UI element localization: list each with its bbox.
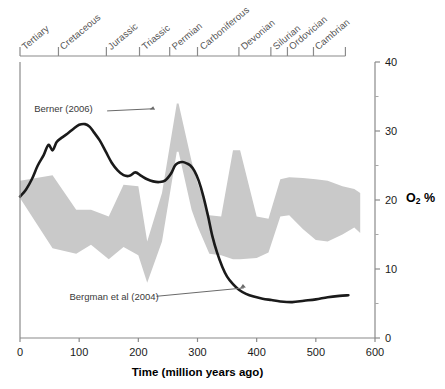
x-tick-label: 500 [307,346,325,358]
y-axis-title: O2 % [406,191,435,206]
y-tick-label: 0 [385,332,391,344]
y-tick-label: 40 [385,56,397,68]
y-tick-label: 10 [385,263,397,275]
x-tick-label: 100 [70,346,88,358]
y-tick-label: 30 [385,125,397,137]
y-axis-ticks [375,62,380,338]
x-tick-label: 600 [366,346,384,358]
chart-canvas [0,0,445,389]
series-annotation-berner: Berner (2006) [34,103,93,114]
x-tick-label: 200 [129,346,147,358]
oxygen-history-chart-figure: TertiaryCretaceousJurassicTriassicPermia… [0,0,445,389]
x-tick-label: 400 [247,346,265,358]
y-tick-label: 20 [385,194,397,206]
x-tick-label: 0 [17,346,23,358]
series-annotation-bergman: Bergman et al (2004) [70,291,159,302]
x-axis-title: Time (million years ago) [132,366,263,378]
x-tick-label: 300 [188,346,206,358]
